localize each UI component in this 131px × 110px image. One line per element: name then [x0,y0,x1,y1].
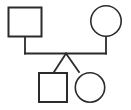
genogram-canvas [0,0,131,110]
genogram-drawing [0,0,131,110]
